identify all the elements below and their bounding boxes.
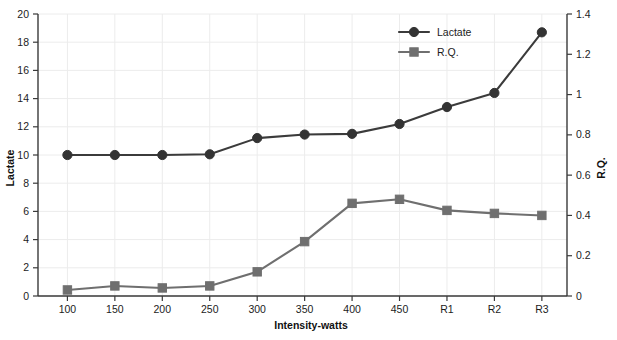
bottom-tick-label: R3 (535, 303, 549, 315)
left-axis-ticks: 02468101214161820 (17, 8, 38, 302)
right-tick-label: 0.8 (576, 128, 591, 140)
left-tick-label: 16 (17, 64, 29, 76)
data-point-lactate (300, 130, 309, 139)
bottom-tick-label: 350 (296, 303, 314, 315)
bottom-tick-label: 250 (201, 303, 219, 315)
left-tick-label: 20 (17, 8, 29, 20)
bottom-tick-label: 200 (154, 303, 172, 315)
right-tick-label: 1.2 (576, 48, 591, 60)
left-tick-label: 0 (23, 290, 29, 302)
data-point-lactate (253, 133, 262, 142)
data-point-rq (158, 284, 166, 292)
bottom-tick-label: 100 (59, 303, 77, 315)
right-axis: 00.20.40.60.811.21.4 (567, 8, 591, 302)
left-tick-label: 6 (23, 205, 29, 217)
bottom-tick-label: R2 (488, 303, 502, 315)
left-tick-label: 2 (23, 261, 29, 273)
legend-square-marker-icon (410, 48, 418, 56)
data-point-rq (348, 199, 356, 207)
right-tick-label: 0 (576, 290, 582, 302)
legend-circle-marker-icon (409, 27, 418, 36)
bottom-tick-label: R1 (440, 303, 454, 315)
bottom-tick-label: 450 (391, 303, 409, 315)
bottom-axis-ticks: 100150200250300350400450R1R2R3 (59, 296, 549, 315)
right-tick-label: 1.4 (576, 8, 591, 20)
left-axis-title: Lactate (4, 149, 16, 186)
bottom-tick-label: 150 (106, 303, 124, 315)
data-point-lactate (110, 150, 119, 159)
left-tick-label: 4 (23, 233, 29, 245)
bottom-tick-label: 300 (248, 303, 266, 315)
chart-canvas: 02468101214161820 00.20.40.60.811.21.4 1… (0, 0, 617, 340)
data-point-rq (206, 282, 214, 290)
data-point-rq (395, 195, 403, 203)
data-point-rq (111, 282, 119, 290)
data-point-lactate (395, 119, 404, 128)
right-tick-label: 0.4 (576, 209, 591, 221)
data-point-rq (443, 206, 451, 214)
left-tick-label: 12 (17, 120, 29, 132)
bottom-axis-title: Intensity-watts (274, 319, 348, 331)
data-point-rq (63, 286, 71, 294)
right-tick-label: 1 (576, 88, 582, 100)
lactate-rq-chart: 02468101214161820 00.20.40.60.811.21.4 1… (0, 0, 617, 340)
right-axis-ticks: 00.20.40.60.811.21.4 (567, 8, 591, 302)
right-tick-label: 0.6 (576, 169, 591, 181)
right-axis-title: R.Q. (595, 157, 607, 179)
data-point-rq (538, 211, 546, 219)
data-point-rq (490, 209, 498, 217)
bottom-axis: 100150200250300350400450R1R2R3 (38, 296, 567, 315)
data-point-lactate (63, 150, 72, 159)
bottom-tick-label: 400 (343, 303, 361, 315)
data-point-rq (300, 237, 308, 245)
left-tick-label: 8 (23, 177, 29, 189)
data-point-rq (253, 268, 261, 276)
legend-label-0: Lactate (437, 26, 472, 38)
right-tick-label: 0.2 (576, 249, 591, 261)
data-point-lactate (347, 129, 356, 138)
data-point-lactate (490, 88, 499, 97)
left-axis: 02468101214161820 (17, 8, 38, 302)
left-tick-label: 14 (17, 92, 29, 104)
left-tick-label: 10 (17, 149, 29, 161)
data-point-lactate (158, 150, 167, 159)
data-point-lactate (205, 150, 214, 159)
data-point-lactate (537, 28, 546, 37)
legend-label-1: R.Q. (437, 46, 459, 58)
left-tick-label: 18 (17, 36, 29, 48)
data-point-lactate (442, 102, 451, 111)
